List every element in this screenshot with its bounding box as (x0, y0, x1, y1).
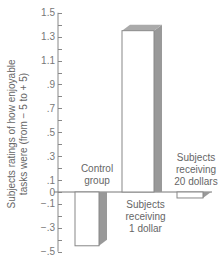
category-label-line: Control (72, 163, 122, 175)
y-tick-label: 1.5 (41, 7, 55, 18)
bar (75, 192, 107, 246)
y-tick-label: −.5 (41, 246, 56, 257)
bar-chart: 1.51.31.1.9.7.5.3.10−.1−.3−.5 Subjects r… (0, 0, 221, 267)
y-tick-label: .1 (47, 175, 56, 186)
category-label-line: Subjects (118, 199, 173, 211)
y-axis-label-line2: tasks were (from − 5 to + 5) (18, 24, 30, 244)
bar (122, 25, 162, 192)
category-label-line: receiving (118, 211, 173, 223)
category-label-line: 1 dollar (118, 223, 173, 235)
y-axis-label: Subjects ratings of how enjoyable tasks … (6, 24, 30, 244)
y-tick-label: .7 (47, 103, 56, 114)
category-label-line: Subjects (170, 152, 221, 164)
category-label-line: group (72, 175, 122, 187)
y-tick-label: .9 (47, 79, 56, 90)
y-tick-label: .5 (47, 127, 56, 138)
y-tick-label: .3 (47, 151, 56, 162)
category-label-control: Control group (72, 163, 122, 187)
y-axis-label-line1: Subjects ratings of how enjoyable (6, 24, 18, 244)
category-label-line: receiving (170, 164, 221, 176)
y-tick-label: 0 (49, 187, 55, 198)
y-tick-label: −.1 (41, 198, 56, 209)
category-label-20-dollars: Subjects receiving 20 dollars (170, 152, 221, 188)
bar (177, 192, 211, 198)
category-label-line: 20 dollars (170, 176, 221, 188)
y-tick-label: 1.3 (41, 31, 55, 42)
chart-canvas: 1.51.31.1.9.7.5.3.10−.1−.3−.5 (0, 0, 221, 267)
category-label-1-dollar: Subjects receiving 1 dollar (118, 199, 173, 235)
y-tick-label: −.3 (41, 222, 56, 233)
y-tick-label: 1.1 (41, 55, 55, 66)
